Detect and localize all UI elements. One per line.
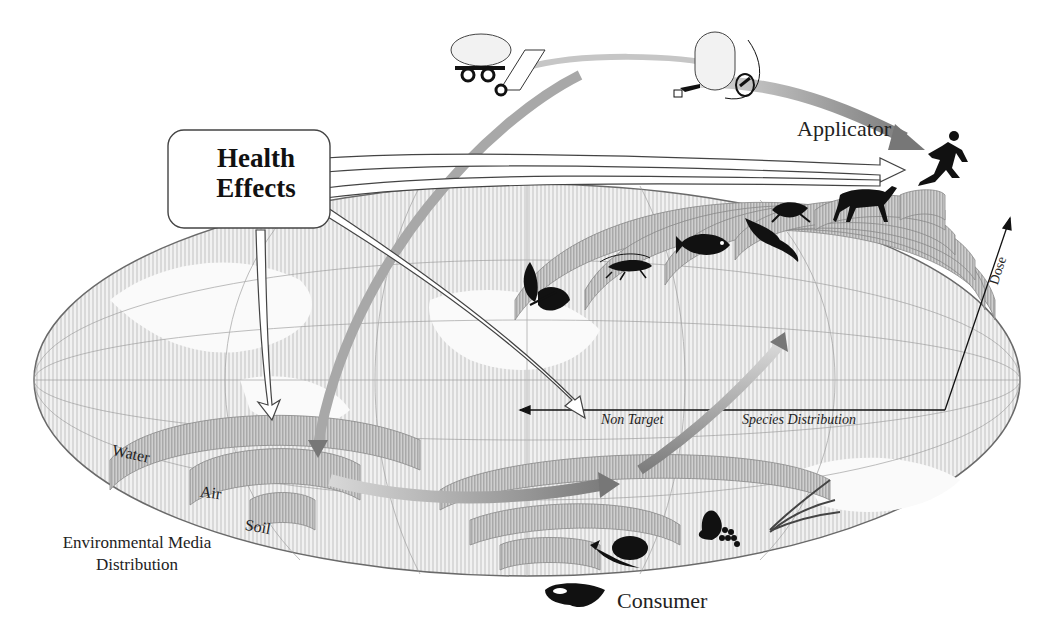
applicator-label: Applicator xyxy=(797,116,891,142)
health-effects-line2: Effects xyxy=(194,173,318,203)
environmental-media-distribution-label: Environmental Media Distribution xyxy=(62,532,212,576)
consumer-label: Consumer xyxy=(617,588,707,614)
health-effects-line1: Health xyxy=(194,143,318,173)
non-target-label: Non Target xyxy=(601,412,663,428)
tank-trailer-sprayer-icon xyxy=(451,34,545,95)
health-effects-label: Health Effects xyxy=(194,143,318,203)
media-label-air: Air xyxy=(199,483,223,504)
meat-icon xyxy=(545,583,605,607)
species-distribution-label: Species Distribution xyxy=(742,412,856,428)
applicator-runner-icon xyxy=(918,131,968,186)
